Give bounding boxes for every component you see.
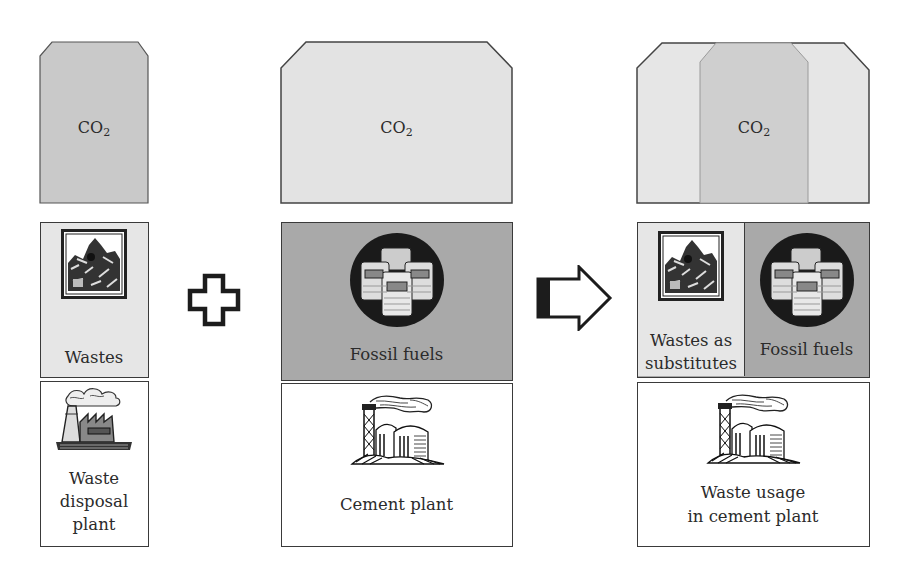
co2-label-right: CO2: [700, 118, 808, 139]
label-line: in cement plant: [638, 505, 868, 529]
waste-pile-icon: [61, 229, 127, 299]
co2-subscript: 2: [406, 126, 413, 139]
co2-label-middle: CO2: [281, 118, 512, 139]
label-line: disposal: [41, 490, 147, 513]
waste-disposal-plant-box: Waste disposal plant: [40, 381, 149, 547]
wastes-as-substitutes-cell: Wastes as substitutes: [638, 223, 745, 376]
co2-subscript: 2: [763, 126, 770, 139]
plus-icon: [186, 272, 242, 328]
fossil-fuels-input-box: Fossil fuels: [281, 222, 513, 381]
waste-disposal-factory-icon: [54, 384, 134, 454]
waste-usage-cement-plant-label: Waste usage in cement plant: [638, 481, 868, 529]
fossil-fuels-label: Fossil fuels: [745, 339, 868, 360]
co2-subscript: 2: [103, 126, 110, 139]
co2-text: CO: [380, 118, 405, 137]
label-line: substitutes: [638, 352, 744, 375]
waste-usage-cement-plant-box: Waste usage in cement plant: [637, 382, 870, 547]
cement-plant-label: Cement plant: [282, 494, 511, 515]
wastes-input-box: Wastes: [40, 222, 149, 378]
label-line: Waste usage: [638, 481, 868, 505]
co2-text: CO: [738, 118, 763, 137]
waste-disposal-plant-label: Waste disposal plant: [41, 467, 147, 536]
oil-barrels-icon: [759, 232, 855, 328]
combined-input-box: Wastes as substitutes Fossil fuels: [637, 222, 870, 378]
label-line: plant: [41, 513, 147, 536]
co2-text: CO: [78, 118, 103, 137]
co2-label-left: CO2: [40, 118, 148, 139]
fossil-fuels-label: Fossil fuels: [282, 344, 511, 365]
wastes-label: Wastes: [41, 347, 147, 368]
cement-plant-icon: [704, 391, 804, 471]
cement-plant-box: Cement plant: [281, 383, 513, 547]
fossil-fuels-cell: Fossil fuels: [745, 223, 868, 376]
oil-barrels-icon: [349, 232, 445, 328]
wastes-as-substitutes-label: Wastes as substitutes: [638, 329, 744, 375]
label-line: Waste: [41, 467, 147, 490]
cement-plant-icon: [348, 392, 448, 472]
right-arrow-icon: [534, 265, 614, 331]
waste-pile-icon: [658, 231, 724, 301]
label-line: Wastes as: [638, 329, 744, 352]
